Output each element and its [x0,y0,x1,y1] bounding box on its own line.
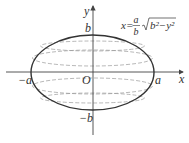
label-a-neg: −a [18,73,32,87]
ellipse-curve [31,35,154,110]
ellipse-diagram: y x O a −a b −b x= a b b²−y² [0,0,189,143]
label-a-pos: a [155,73,161,87]
y-axis-label: y [83,4,90,18]
origin-label: O [82,73,91,87]
formula-radicand: b²−y² [150,19,175,31]
label-b-pos: b [85,21,91,35]
formula-numerator: a [134,14,139,25]
formula-lhs: x= [120,19,133,31]
formula-denominator: b [134,26,139,37]
formula: x= a b b²−y² [120,14,176,37]
x-axis-label: x [178,72,185,86]
label-b-neg: −b [79,111,93,125]
